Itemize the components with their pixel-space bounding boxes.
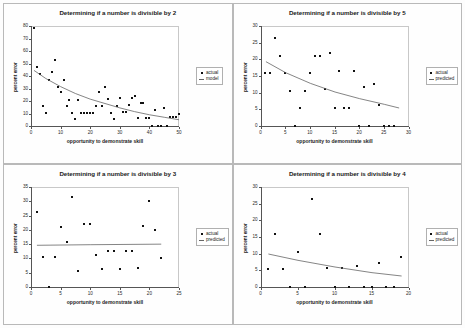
y-tick-label: 0 [14,284,28,289]
chart-2: Determining if a number is divisible by … [234,4,462,163]
chart-1: Determining if a number is divisible by … [4,4,232,163]
y-tick-label: 30 [244,184,258,189]
y-tick-label: 35 [14,184,28,189]
trend-line [261,187,413,291]
y-tick-label: 30 [14,198,28,203]
chart-legend[interactable]: actualpredicted [196,228,229,246]
x-tick-label: 0 [23,291,39,296]
x-tick-label: 30 [401,130,417,135]
x-tick-label: 5 [290,291,306,296]
y-tick-label: 10 [14,111,28,116]
y-tick-label: 20 [244,217,258,222]
y-tick-label: 30 [244,23,258,28]
trend-line [31,26,183,130]
chart-title: Determining if a number is divisible by … [4,9,232,16]
x-tick-label: 5 [277,130,293,135]
x-tick-label: 50 [171,130,187,135]
x-tick-label: 40 [141,130,157,135]
y-tick-label: 5 [14,270,28,275]
y-tick-label: 25 [244,201,258,206]
x-tick-label: 5 [53,291,69,296]
x-tick-label: 10 [82,291,98,296]
x-axis-title: opportunity to demonstrate skill [261,138,409,144]
legend-item[interactable]: predicted [429,237,455,243]
legend-line-icon [429,237,434,243]
x-tick-label: 0 [253,291,269,296]
legend-line-icon [199,237,204,243]
y-tick-label: 0 [244,123,258,128]
x-axis-title: opportunity to demonstrate skill [31,138,179,144]
chart-panel-1: Determining if a number is divisible by … [3,3,233,164]
chart-panel-2: Determining if a number is divisible by … [233,3,463,164]
x-tick-label: 25 [171,291,187,296]
y-axis-title: percent error [243,62,248,92]
y-tick-label: 25 [244,40,258,45]
legend-label: predicted [206,237,225,243]
legend-item[interactable]: predicted [199,237,225,243]
x-tick-label: 10 [327,291,343,296]
y-tick-label: 10 [14,255,28,260]
x-axis-title: opportunity to demonstrate skill [261,299,409,305]
chart-panel-4: Determining if a number is divisible by … [233,164,463,325]
chart-title: Determining if a number is divisible by … [234,9,462,16]
legend-label: predicted [436,237,455,243]
y-tick-label: 20 [14,98,28,103]
legend-label: predicted [436,76,455,82]
x-tick-label: 0 [23,130,39,135]
legend-item[interactable]: model [199,76,219,82]
x-tick-label: 15 [327,130,343,135]
chart-title: Determining if a number is divisible by … [4,170,232,177]
chart-legend[interactable]: actualmodel [196,67,223,85]
trend-line [31,187,183,291]
x-tick-label: 30 [112,130,128,135]
y-axis-title: percent error [243,223,248,253]
chart-panel-3: Determining if a number is divisible by … [3,164,233,325]
y-tick-label: 25 [14,213,28,218]
x-tick-label: 15 [364,291,380,296]
x-tick-label: 20 [82,130,98,135]
chart-title: Determining if a number is divisible by … [234,170,462,177]
chart-legend[interactable]: actualpredicted [426,67,459,85]
x-tick-label: 20 [351,130,367,135]
x-tick-label: 10 [53,130,69,135]
chart-3: Determining if a number is divisible by … [4,165,232,324]
y-axis-title: percent error [13,223,18,253]
chart-grid: Determining if a number is divisible by … [3,3,462,325]
legend-line-icon [199,76,204,82]
x-axis-title: opportunity to demonstrate skill [31,299,179,305]
y-tick-label: 0 [244,284,258,289]
x-tick-label: 25 [376,130,392,135]
y-tick-label: 70 [14,36,28,41]
figure-page: Determining if a number is divisible by … [0,0,465,328]
trend-line [261,26,413,130]
chart-legend[interactable]: actualpredicted [426,228,459,246]
x-tick-label: 20 [401,291,417,296]
y-tick-label: 20 [244,56,258,61]
chart-4: Determining if a number is divisible by … [234,165,462,324]
x-tick-label: 20 [141,291,157,296]
y-tick-label: 80 [14,23,28,28]
x-tick-label: 15 [112,291,128,296]
x-tick-label: 0 [253,130,269,135]
y-axis-title: percent error [13,62,18,92]
y-tick-label: 0 [14,123,28,128]
y-tick-label: 5 [244,267,258,272]
legend-line-icon [429,76,434,82]
legend-item[interactable]: predicted [429,76,455,82]
legend-label: model [206,76,219,82]
y-tick-label: 60 [14,48,28,53]
x-tick-label: 10 [302,130,318,135]
y-tick-label: 5 [244,106,258,111]
